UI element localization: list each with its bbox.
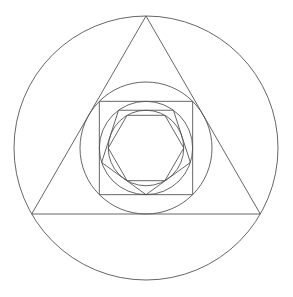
- figure-background: [0, 0, 293, 297]
- figure-container: [0, 0, 293, 297]
- nested-polygons-figure: [0, 0, 293, 297]
